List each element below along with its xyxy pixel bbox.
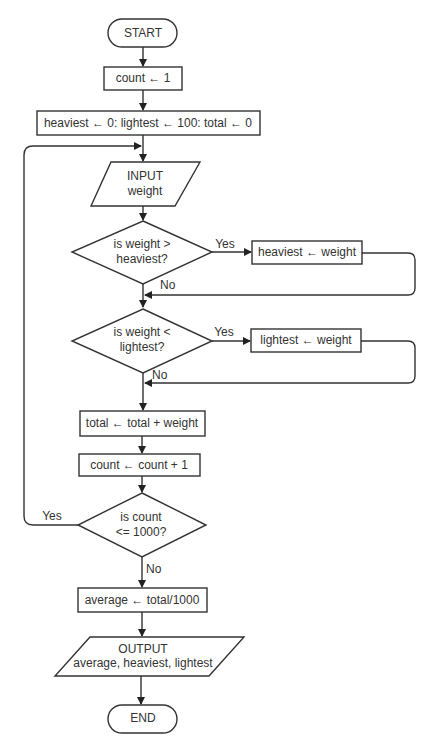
output-line1: OUTPUT (118, 642, 168, 656)
decision-heaviest: is weight > heaviest? (72, 221, 212, 284)
light-no-label: No (152, 368, 168, 382)
set-light-label: lightest ← weight (260, 333, 352, 347)
set-lightest-box: lightest ← weight (251, 329, 361, 352)
add-total-box: total ← total + weight (80, 411, 205, 436)
count-yes-label: Yes (42, 509, 62, 523)
heavy-no-label: No (160, 278, 176, 292)
flowchart: START count ← 1 heaviest ← 0: lightest ←… (0, 0, 439, 756)
init-count-label: count ← 1 (116, 71, 171, 85)
init-vars-label: heaviest ← 0: lightest ← 100: total ← 0 (44, 116, 252, 130)
average-box: average ← total/1000 (78, 588, 207, 612)
end-label: END (130, 711, 156, 725)
count-no-label: No (146, 562, 162, 576)
dec-light-line2: lightest? (120, 340, 165, 354)
decision-lightest: is weight < lightest? (72, 309, 212, 373)
start-terminator: START (108, 19, 177, 47)
set-heavy-label: heaviest ← weight (258, 245, 357, 259)
start-label: START (124, 26, 163, 40)
init-vars-box: heaviest ← 0: lightest ← 100: total ← 0 (37, 111, 260, 135)
decision-count: is count <= 1000? (78, 493, 206, 557)
output-io: OUTPUT average, heaviest, lightest (55, 637, 244, 676)
output-line2: average, heaviest, lightest (73, 656, 213, 670)
average-label: average ← total/1000 (85, 593, 200, 607)
init-count-box: count ← 1 (104, 67, 182, 90)
input-line1: INPUT (127, 169, 164, 183)
inc-count-label: count ← count + 1 (90, 458, 188, 472)
dec-count-line1: is count (120, 510, 162, 524)
end-terminator: END (108, 705, 177, 733)
set-heaviest-box: heaviest ← weight (252, 241, 362, 264)
light-yes-label: Yes (214, 325, 234, 339)
dec-heavy-line2: heaviest? (116, 252, 168, 266)
dec-heavy-line1: is weight > (113, 237, 170, 251)
dec-light-line1: is weight < (113, 325, 170, 339)
dec-count-line2: <= 1000? (116, 525, 167, 539)
add-total-label: total ← total + weight (86, 416, 199, 430)
heavy-yes-label: Yes (215, 237, 235, 251)
input-line2: weight (127, 184, 163, 198)
input-weight-io: INPUT weight (91, 162, 200, 206)
inc-count-box: count ← count + 1 (79, 454, 200, 476)
